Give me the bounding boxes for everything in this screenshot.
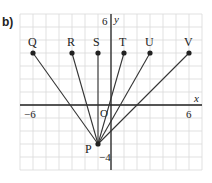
point-label-U: U — [145, 35, 154, 49]
y-tick-label: −4 — [99, 151, 111, 163]
point-label-Q: Q — [28, 35, 37, 49]
segment-PQ — [33, 53, 98, 144]
coordinate-grid: xyO−666−4QRSTUVP — [0, 0, 212, 183]
point-label-P: P — [85, 142, 92, 156]
point-V — [186, 50, 191, 55]
point-T — [121, 50, 126, 55]
coordinate-diagram: b) xyO−666−4QRSTUVP — [0, 0, 212, 183]
point-S — [95, 50, 100, 55]
x-axis-label: x — [193, 92, 199, 104]
point-P — [95, 141, 100, 146]
point-label-V: V — [184, 35, 193, 49]
point-label-R: R — [67, 35, 75, 49]
point-R — [69, 50, 74, 55]
point-U — [147, 50, 152, 55]
x-tick-label: −6 — [24, 108, 36, 120]
point-label-S: S — [93, 35, 100, 49]
point-Q — [30, 50, 35, 55]
y-axis-label: y — [113, 13, 119, 25]
y-tick-label: 6 — [102, 15, 108, 27]
point-label-T: T — [119, 35, 127, 49]
x-tick-label: 6 — [186, 108, 192, 120]
